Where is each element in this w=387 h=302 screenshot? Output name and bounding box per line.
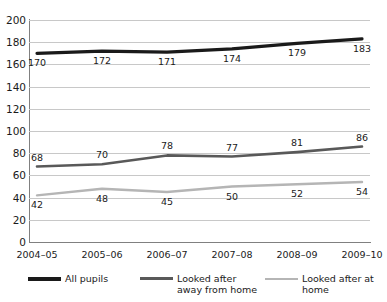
x-tick-label: 2005–06: [74, 250, 130, 260]
y-tick-label: 40: [2, 193, 26, 204]
chart-legend: All pupilsLooked after away from homeLoo…: [0, 273, 380, 302]
data-label: 171: [158, 57, 176, 67]
x-tick-label: 2004–05: [9, 250, 65, 260]
data-label: 81: [291, 138, 303, 148]
series-line: [37, 147, 362, 167]
data-label: 77: [226, 143, 238, 153]
gridline-0: [29, 242, 370, 243]
data-label: 170: [28, 58, 46, 68]
series-lines: [29, 20, 370, 242]
y-tick-label: 80: [2, 148, 26, 159]
x-tick-label: 2006–07: [139, 250, 195, 260]
plot-area: 1701721711741791836870787781864248455052…: [29, 20, 370, 242]
legend-item[interactable]: Looked after away from home: [140, 273, 260, 295]
y-tick-label: 140: [2, 82, 26, 93]
y-tick-label: 180: [2, 37, 26, 48]
series-line: [37, 39, 362, 53]
y-tick-label: 0: [2, 237, 26, 248]
y-tick-label: 200: [2, 15, 26, 26]
legend-label: Looked after at home: [302, 273, 375, 295]
data-label: 172: [93, 56, 111, 66]
y-tick-label: 160: [2, 59, 26, 70]
x-tick-label: 2008–09: [269, 250, 325, 260]
legend-line-swatch-icon: [28, 277, 61, 281]
data-label: 86: [356, 133, 368, 143]
series-line: [37, 182, 362, 195]
data-label: 48: [96, 194, 108, 204]
legend-line-swatch-icon: [265, 278, 298, 281]
data-label: 68: [31, 153, 43, 163]
data-label: 54: [356, 187, 368, 197]
legend-item[interactable]: All pupils: [28, 273, 128, 284]
data-label: 179: [288, 48, 306, 58]
x-tick-label: 2007–08: [204, 250, 260, 260]
data-label: 183: [353, 44, 371, 54]
y-tick-label: 100: [2, 126, 26, 137]
y-tick-label: 20: [2, 215, 26, 226]
legend-item[interactable]: Looked after at home: [265, 273, 375, 295]
data-label: 45: [161, 197, 173, 207]
data-label: 52: [291, 189, 303, 199]
data-label: 174: [223, 54, 241, 64]
data-label: 78: [161, 141, 173, 151]
data-label: 42: [31, 200, 43, 210]
x-tick-label: 2009–10: [334, 250, 387, 260]
data-label: 70: [96, 150, 108, 160]
data-label: 50: [226, 192, 238, 202]
y-tick-label: 120: [2, 104, 26, 115]
legend-label: Looked after away from home: [177, 273, 260, 295]
legend-label: All pupils: [65, 273, 108, 284]
legend-line-swatch-icon: [140, 277, 173, 280]
y-tick-label: 60: [2, 170, 26, 181]
